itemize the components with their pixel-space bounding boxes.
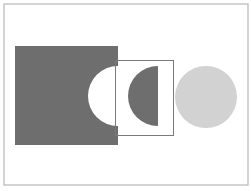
light-circle (175, 66, 237, 128)
diagram-canvas (0, 0, 251, 191)
